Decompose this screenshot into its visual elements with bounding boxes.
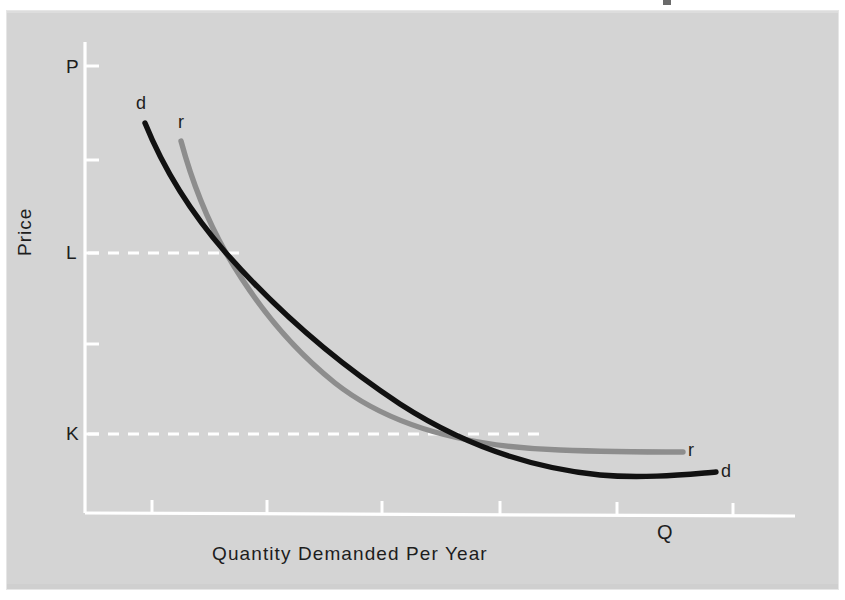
revenue-curve-label-start: r [178,112,185,133]
demand-curve-d [145,123,716,477]
revenue-curve-label-end: r [688,440,695,461]
x-axis-cap-label-q: Q [657,521,673,544]
y-tick-label-l: L [66,242,77,264]
x-axis-title: Quantity Demanded Per Year [212,543,488,565]
y-axis-title: Price [14,208,36,256]
demand-curve-label-end: d [721,461,732,482]
y-tick-label-p: P [66,56,79,78]
y-tick-label-k: K [66,423,79,445]
figure-container: Price Quantity Demanded Per Year P L K Q… [0,0,845,600]
x-axis-line [85,513,795,516]
chart-plot-area [0,0,845,600]
revenue-curve-r [181,141,683,452]
demand-curve-label-start: d [136,93,147,114]
